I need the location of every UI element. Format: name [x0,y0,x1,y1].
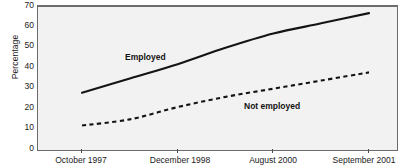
plot-area: Employed Not employed [37,5,398,151]
x-tick-mark-december-1998 [177,149,178,153]
x-tick-mark-september-2001 [368,149,369,153]
annotation-not-employed: Not employed [244,101,300,111]
y-tick-label-40: 40 [12,62,34,71]
y-tick-label-60: 60 [12,21,34,30]
chart-figure: Percentage 70 60 50 40 30 20 10 0 [0,0,402,168]
x-tick-label-december-1998: December 1998 [150,155,210,165]
y-tick-label-50: 50 [12,41,34,50]
x-tick-label-october-1997: October 1997 [55,155,107,165]
y-tick-label-20: 20 [12,103,34,112]
annotation-employed: Employed [125,52,166,62]
x-tick-mark-october-1997 [81,149,82,153]
y-tick-label-70: 70 [12,1,34,10]
data-lines-svg [38,7,397,150]
x-tick-mark-august-2000 [272,149,273,153]
y-tick-label-0: 0 [12,144,34,153]
x-tick-label-august-2000: August 2000 [249,155,297,165]
y-tick-label-10: 10 [12,123,34,132]
x-tick-label-september-2001: September 2001 [333,155,396,165]
y-axis-tick-labels: 70 60 50 40 30 20 10 0 [8,0,34,168]
y-tick-label-30: 30 [12,82,34,91]
